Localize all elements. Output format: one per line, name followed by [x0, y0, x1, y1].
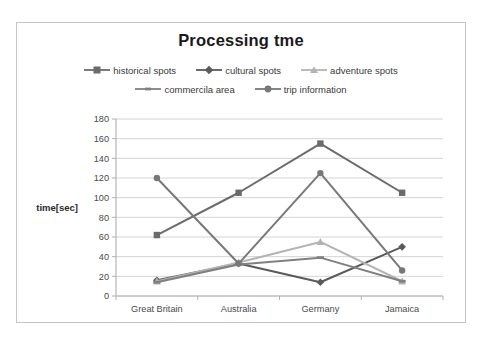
- legend-item-cultural-spots[interactable]: cultural spots: [196, 65, 281, 77]
- legend-label-commercila-area: commercila area: [164, 84, 234, 95]
- legend-item-commercila-area[interactable]: commercila area: [135, 84, 234, 96]
- legend-label-historical-spots: historical spots: [113, 65, 176, 76]
- legend-key-triangle-icon: [301, 65, 327, 77]
- chart-legend: historical spots cultural spots: [17, 61, 465, 99]
- legend-key-circle-icon: [255, 84, 281, 96]
- legend-label-trip-information: trip information: [284, 84, 347, 95]
- legend-item-adventure-spots[interactable]: adventure spots: [301, 65, 398, 77]
- legend-item-historical-spots[interactable]: historical spots: [84, 65, 176, 77]
- chart-container: Processing tme historical spots: [16, 22, 466, 323]
- legend-item-trip-information[interactable]: trip information: [255, 84, 347, 96]
- legend-key-diamond-icon: [196, 65, 222, 77]
- legend-label-cultural-spots: cultural spots: [225, 65, 281, 76]
- legend-key-line-icon: [135, 84, 161, 96]
- legend-key-square-icon: [84, 65, 110, 77]
- legend-label-adventure-spots: adventure spots: [330, 65, 398, 76]
- legend-row-2: commercila area trip information: [17, 80, 465, 99]
- legend-row-1: historical spots cultural spots: [17, 61, 465, 80]
- chart-title: Processing tme: [17, 31, 465, 50]
